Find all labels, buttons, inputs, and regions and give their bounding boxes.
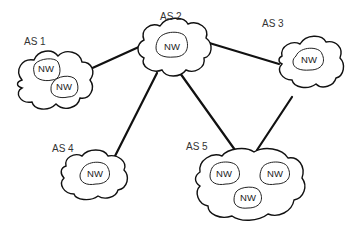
as4-label: AS 4: [52, 143, 74, 154]
link-as2-as3: [206, 42, 279, 64]
link-as2-as4: [112, 73, 157, 162]
network-diagram: AS 1 NW NW AS 2 NW AS 3 NW AS 4 NW AS 5 …: [0, 0, 360, 236]
as1-network-1: NW: [38, 63, 54, 74]
link-as1-as2: [88, 46, 141, 70]
as5-cloud: [196, 149, 305, 221]
as3-network-1: NW: [301, 54, 317, 65]
as4-network-1: NW: [87, 168, 103, 179]
as2-label: AS 2: [160, 11, 182, 22]
as5-network-1: NW: [216, 168, 232, 179]
link-as3-as5: [257, 97, 292, 150]
as2-network-1: NW: [164, 41, 180, 52]
as5-label: AS 5: [186, 141, 208, 152]
as5-network-2: NW: [267, 168, 283, 179]
as1-network-2: NW: [56, 81, 72, 92]
as1-label: AS 1: [24, 36, 46, 47]
as3-label: AS 3: [262, 18, 284, 29]
as5-network-3: NW: [240, 192, 256, 203]
link-as2-as5: [180, 73, 235, 150]
